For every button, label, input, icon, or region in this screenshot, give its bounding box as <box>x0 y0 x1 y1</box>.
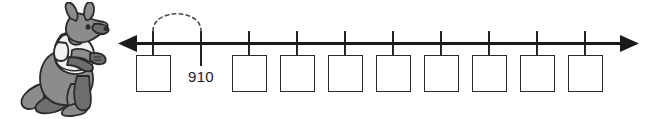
answer-box-0[interactable] <box>136 55 171 92</box>
answer-box-8[interactable] <box>520 55 555 92</box>
answer-box-9[interactable] <box>568 55 603 92</box>
tick-label-910: 910 <box>171 68 231 85</box>
axis-arrow-right-icon <box>620 35 639 52</box>
answer-box-7[interactable] <box>472 55 507 92</box>
axis-arrow-left-icon <box>118 35 137 52</box>
answer-box-2[interactable] <box>232 55 267 92</box>
worksheet-canvas: 910 <box>0 0 646 119</box>
answer-box-5[interactable] <box>376 55 411 92</box>
number-line: 910 <box>0 0 646 119</box>
skip-count-jump-arc <box>153 14 201 31</box>
answer-box-6[interactable] <box>424 55 459 92</box>
answer-box-4[interactable] <box>328 55 363 92</box>
answer-box-3[interactable] <box>280 55 315 92</box>
